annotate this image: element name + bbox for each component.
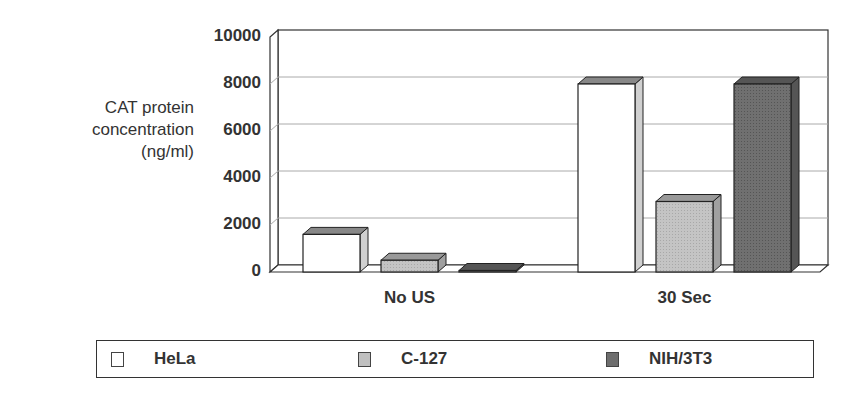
bar-side (360, 227, 368, 272)
bar-front (734, 84, 791, 272)
bar-top (578, 77, 643, 84)
legend-label: NIH/3T3 (649, 349, 712, 369)
bar-top (459, 264, 524, 271)
legend-swatch (111, 352, 124, 367)
legend-item-hela: HeLa (111, 349, 196, 369)
bar-side (635, 77, 643, 272)
y-tick-label: 6000 (223, 120, 261, 139)
bar-hela-30-sec (578, 77, 643, 272)
bar-front (381, 260, 438, 272)
bar-top (656, 195, 721, 202)
legend-swatch (606, 352, 619, 367)
x-tick-label: 30 Sec (658, 288, 712, 307)
legend-swatch (358, 352, 371, 367)
y-axis-title-line: CAT protein (20, 97, 194, 119)
legend-label: HeLa (154, 349, 196, 369)
side-wall (270, 30, 278, 272)
bar-nih3t3-30-sec (734, 77, 799, 272)
y-tick-label: 0 (252, 261, 261, 280)
y-axis-title: CAT protein concentration (ng/ml) (20, 97, 194, 163)
x-axis-labels: No US30 Sec (384, 288, 711, 307)
legend-item-nih3t3: NIH/3T3 (606, 349, 712, 369)
bar-side (791, 77, 799, 272)
bar-front (578, 84, 635, 272)
y-axis-title-line: (ng/ml) (20, 141, 194, 163)
bar-front (459, 271, 516, 273)
x-tick-label: No US (384, 288, 435, 307)
y-axis-ticks: 0200040006000800010000 (214, 26, 261, 280)
bar-c127-30-sec (656, 195, 721, 273)
y-tick-label: 8000 (223, 73, 261, 92)
y-axis-title-line: concentration (20, 119, 194, 141)
bar-front (656, 202, 713, 273)
bar-front (303, 234, 360, 272)
bar-top (734, 77, 799, 84)
legend-label: C-127 (401, 349, 447, 369)
bar-hela-no-us (303, 227, 368, 272)
y-tick-label: 10000 (214, 26, 261, 45)
bar-nih3t3-no-us (459, 264, 524, 273)
legend: HeLa C-127 NIH/3T3 (96, 340, 814, 378)
legend-item-c127: C-127 (358, 349, 447, 369)
bar-c127-no-us (381, 253, 446, 272)
bar-side (713, 195, 721, 273)
y-tick-label: 4000 (223, 167, 261, 186)
bar-top (381, 253, 446, 260)
bar-top (303, 227, 368, 234)
y-tick-label: 2000 (223, 214, 261, 233)
bar-chart: 0200040006000800010000 No US30 Sec (0, 0, 862, 330)
